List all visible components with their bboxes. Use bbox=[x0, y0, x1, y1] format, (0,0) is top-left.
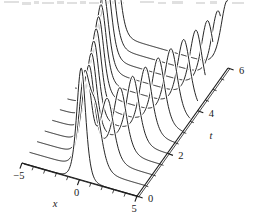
t-tick-label-2: 4 bbox=[209, 108, 215, 119]
t-tick-label-3: 6 bbox=[239, 65, 244, 76]
axis-tick bbox=[77, 180, 79, 186]
t-tick-label-1: 2 bbox=[178, 150, 183, 161]
surface-plot-3d: −5050246 x t bbox=[0, 0, 254, 218]
x-axis-line bbox=[24, 164, 139, 197]
figure-container: −5050246 x t bbox=[0, 0, 254, 218]
mesh-curves bbox=[22, 0, 228, 196]
x-axis-label: x bbox=[52, 198, 58, 209]
x-tick-label-0: −5 bbox=[13, 170, 24, 181]
t-axis-label: t bbox=[210, 130, 214, 141]
x-tick-label-2: 5 bbox=[131, 203, 136, 214]
axis-tick bbox=[20, 163, 22, 169]
x-tick-label-1: 0 bbox=[74, 187, 79, 198]
t-tick-label-0: 0 bbox=[148, 193, 153, 204]
